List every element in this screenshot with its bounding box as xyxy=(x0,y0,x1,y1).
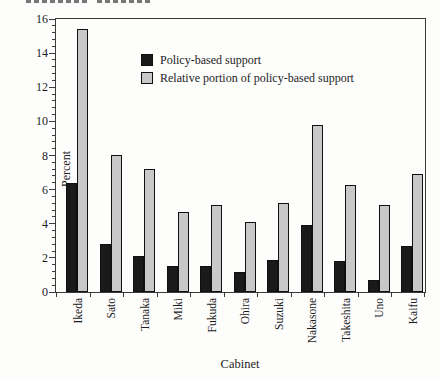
y-major-tick xyxy=(49,292,56,293)
y-minor-tick xyxy=(52,32,56,33)
y-minor-tick xyxy=(52,59,56,60)
y-minor-tick xyxy=(52,230,56,231)
y-tick-label: 4 xyxy=(18,216,48,232)
plot-area: Percent Policy-based support Relative po… xyxy=(55,18,426,293)
y-minor-tick xyxy=(52,107,56,108)
y-tick-label: 6 xyxy=(18,182,48,198)
x-category-label-sato: Sato xyxy=(103,298,119,358)
y-minor-tick xyxy=(52,285,56,286)
clipped-text-fragment-bar xyxy=(26,0,90,3)
bar-sato-black xyxy=(100,244,111,292)
clipped-text-fragment xyxy=(26,0,90,3)
y-major-tick xyxy=(49,155,56,156)
legend-label-relative-portion: Relative portion of policy-based support xyxy=(160,71,354,86)
legend-label-policy-based-support: Policy-based support xyxy=(160,53,261,68)
x-tick xyxy=(291,292,292,297)
bar-fukuda-gray xyxy=(211,205,222,292)
x-category-label-ohira: Ohira xyxy=(237,298,253,358)
bar-ohira-gray xyxy=(245,222,256,292)
y-minor-tick xyxy=(52,141,56,142)
legend: Policy-based support Relative portion of… xyxy=(141,51,354,87)
y-tick-label: 2 xyxy=(18,250,48,266)
y-minor-tick xyxy=(52,128,56,129)
legend-swatch-gray-square xyxy=(141,72,153,84)
bar-miki-gray xyxy=(178,212,189,292)
y-minor-tick xyxy=(52,196,56,197)
x-category-label-uno: Uno xyxy=(371,298,387,358)
y-tick-label: 16 xyxy=(18,11,48,27)
bar-sato-gray xyxy=(111,155,122,292)
bar-fukuda-black xyxy=(200,266,211,292)
x-tick xyxy=(190,292,191,297)
bar-uno-black xyxy=(368,280,379,292)
bar-takeshita-gray xyxy=(345,185,356,292)
y-major-tick xyxy=(49,53,56,54)
clipped-text-fragment xyxy=(97,0,150,3)
x-category-label-takeshita: Takeshita xyxy=(338,298,354,358)
y-minor-tick xyxy=(52,216,56,217)
bar-tanaka-black xyxy=(133,256,144,292)
y-minor-tick xyxy=(52,66,56,67)
y-minor-tick xyxy=(52,39,56,40)
bar-suzuki-black xyxy=(267,260,278,292)
y-minor-tick xyxy=(52,80,56,81)
bar-ikeda-black xyxy=(66,183,77,292)
bar-takeshita-black xyxy=(334,261,345,292)
x-tick xyxy=(224,292,225,297)
y-minor-tick xyxy=(52,237,56,238)
y-minor-tick xyxy=(52,25,56,26)
y-minor-tick xyxy=(52,73,56,74)
bar-ikeda-gray xyxy=(77,29,88,292)
y-minor-tick xyxy=(52,114,56,115)
x-tick xyxy=(424,292,425,297)
y-major-tick xyxy=(49,87,56,88)
x-tick xyxy=(358,292,359,297)
y-minor-tick xyxy=(52,100,56,101)
y-minor-tick xyxy=(52,264,56,265)
y-minor-tick xyxy=(52,162,56,163)
y-minor-tick xyxy=(52,175,56,176)
y-major-tick xyxy=(49,257,56,258)
y-major-tick xyxy=(49,189,56,190)
bar-uno-gray xyxy=(379,205,390,292)
x-tick xyxy=(324,292,325,297)
y-minor-tick xyxy=(52,278,56,279)
x-category-label-ikeda: Ikeda xyxy=(70,298,86,358)
y-tick-label: 10 xyxy=(18,113,48,129)
y-tick-label: 0 xyxy=(18,284,48,300)
y-minor-tick xyxy=(52,94,56,95)
bar-suzuki-gray xyxy=(278,203,289,292)
bar-kaifu-black xyxy=(401,246,412,292)
x-tick xyxy=(257,292,258,297)
y-minor-tick xyxy=(52,46,56,47)
bar-nakasone-black xyxy=(301,225,312,292)
x-category-label-miki: Miki xyxy=(170,298,186,358)
y-minor-tick xyxy=(52,210,56,211)
x-category-label-nakasone: Nakasone xyxy=(304,298,320,358)
y-tick-label: 14 xyxy=(18,45,48,61)
x-category-label-tanaka: Tanaka xyxy=(137,298,153,358)
y-major-tick xyxy=(49,121,56,122)
x-category-label-kaifu: Kaifu xyxy=(405,298,421,358)
x-axis-title: Cabinet xyxy=(180,357,300,372)
legend-swatch-black-square xyxy=(141,54,153,66)
bar-tanaka-gray xyxy=(144,169,155,292)
x-category-label-suzuki: Suzuki xyxy=(271,298,287,358)
y-major-tick xyxy=(49,223,56,224)
y-minor-tick xyxy=(52,169,56,170)
legend-item-policy-based-support: Policy-based support xyxy=(141,51,354,69)
y-tick-label: 8 xyxy=(18,148,48,164)
bar-ohira-black xyxy=(234,272,245,292)
y-major-tick xyxy=(49,19,56,20)
y-minor-tick xyxy=(52,148,56,149)
bar-nakasone-gray xyxy=(312,125,323,292)
x-tick xyxy=(90,292,91,297)
bar-miki-black xyxy=(167,266,178,292)
y-minor-tick xyxy=(52,251,56,252)
x-tick xyxy=(56,292,57,297)
y-minor-tick xyxy=(52,182,56,183)
y-tick-label: 12 xyxy=(18,79,48,95)
y-minor-tick xyxy=(52,135,56,136)
x-category-label-fukuda: Fukuda xyxy=(204,298,220,358)
y-minor-tick xyxy=(52,244,56,245)
